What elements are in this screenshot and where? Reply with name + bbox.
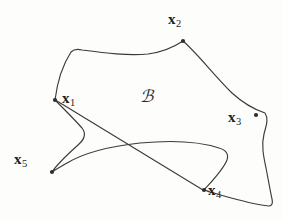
point-label-x4: x4 <box>208 183 221 200</box>
point-label-x1: x1 <box>62 91 75 108</box>
point-subscript-x2: 2 <box>176 18 181 29</box>
point-subscript-x4: 4 <box>216 189 221 200</box>
point-label-x2: x2 <box>168 12 181 29</box>
point-symbol-x1: x <box>62 90 70 106</box>
point-dot-x5 <box>50 170 54 174</box>
point-dot-x1 <box>53 98 57 102</box>
point-dot-x4 <box>202 188 206 192</box>
point-symbol-x4: x <box>208 182 216 198</box>
region-diagram: ℬ x1 x2 x3 x4 x5 <box>0 0 283 220</box>
point-subscript-x5: 5 <box>22 158 27 169</box>
region-label-B: ℬ <box>140 88 153 105</box>
point-symbol-x2: x <box>168 11 176 27</box>
point-symbol-x5: x <box>14 151 22 167</box>
point-label-x5: x5 <box>14 152 27 169</box>
point-subscript-x1: 1 <box>70 97 75 108</box>
point-label-x3: x3 <box>228 110 241 127</box>
point-dot-x3 <box>254 113 258 117</box>
point-subscript-x3: 3 <box>236 116 241 127</box>
chord-x1-to-x4 <box>57 101 203 190</box>
point-dot-x2 <box>181 39 185 43</box>
point-symbol-x3: x <box>228 109 236 125</box>
